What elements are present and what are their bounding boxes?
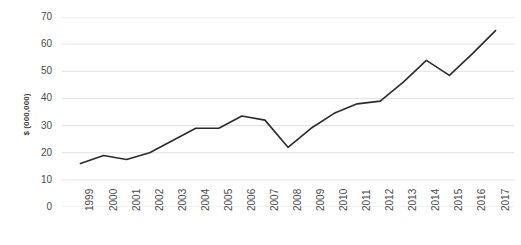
y-axis-tick: 0: [22, 202, 52, 212]
x-axis-tick: 2011: [361, 189, 372, 211]
x-axis-tick: 2007: [269, 189, 280, 211]
x-axis-tick: 2015: [453, 189, 464, 211]
x-axis-tick: 2000: [108, 189, 119, 211]
x-axis-tick: 2013: [407, 189, 418, 211]
x-axis-tick: 2017: [500, 189, 511, 211]
x-axis-tick: 2008: [292, 189, 303, 211]
y-axis-tick: 50: [22, 66, 52, 76]
y-axis-tick: 40: [22, 93, 52, 103]
y-axis-tick: 30: [22, 121, 52, 131]
x-axis-tick: 2016: [476, 189, 487, 211]
x-axis-tick: 2001: [131, 189, 142, 211]
x-axis-tick: 1999: [84, 189, 95, 211]
x-axis-tick: 2005: [223, 189, 234, 211]
x-axis-tick: 2006: [246, 189, 257, 211]
line-chart: $ (000,000) 010203040506070 199920002001…: [0, 0, 521, 245]
chart-canvas: [62, 17, 514, 207]
plot-area: [62, 17, 514, 207]
x-axis-tick: 2004: [200, 189, 211, 211]
y-axis-tick: 10: [22, 175, 52, 185]
x-axis-tick: 2003: [177, 189, 188, 211]
y-axis-tick: 20: [22, 148, 52, 158]
y-axis-tick: 60: [22, 39, 52, 49]
y-axis-tick: 70: [22, 12, 52, 22]
x-axis-tick: 2012: [384, 189, 395, 211]
data-series-line: [80, 31, 495, 164]
x-axis-tick: 2002: [154, 189, 165, 211]
x-axis-tick: 2010: [338, 189, 349, 211]
gridlines: [62, 17, 514, 207]
x-axis-tick: 2014: [430, 189, 441, 211]
x-axis-tick: 2009: [315, 189, 326, 211]
